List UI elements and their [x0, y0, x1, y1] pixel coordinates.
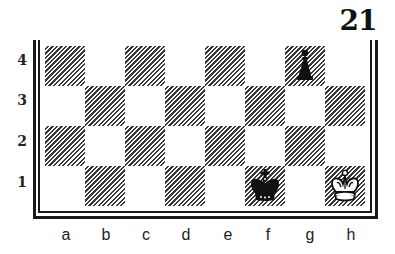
square-c1 — [125, 166, 165, 206]
square-h4 — [325, 46, 365, 86]
square-b1 — [85, 166, 125, 206]
square-g2 — [285, 126, 325, 166]
square-a4 — [45, 46, 85, 86]
file-label-c: c — [136, 226, 156, 244]
square-e3 — [205, 86, 245, 126]
board-border-right-inner — [370, 40, 372, 213]
board-border-right-outer — [375, 40, 378, 219]
square-f1 — [245, 166, 285, 206]
square-a1 — [45, 166, 85, 206]
square-f2 — [245, 126, 285, 166]
square-g1 — [285, 166, 325, 206]
file-label-g: g — [300, 226, 320, 244]
board-border-left-inner — [38, 40, 40, 213]
square-e2 — [205, 126, 245, 166]
square-h2 — [325, 126, 365, 166]
file-label-d: d — [176, 226, 196, 244]
square-g3 — [285, 86, 325, 126]
square-a2 — [45, 126, 85, 166]
rank-label-2: 2 — [14, 133, 30, 149]
square-b3 — [85, 86, 125, 126]
square-h1 — [325, 166, 365, 206]
square-f3 — [245, 86, 285, 126]
file-label-e: e — [218, 226, 238, 244]
white-king-icon — [325, 166, 365, 206]
rank-label-3: 3 — [14, 92, 30, 108]
square-c2 — [125, 126, 165, 166]
diagram-number: 21 — [328, 4, 388, 38]
square-g4 — [285, 46, 325, 86]
square-e1 — [205, 166, 245, 206]
square-b4 — [85, 46, 125, 86]
rank-label-1: 1 — [14, 174, 30, 190]
square-b2 — [85, 126, 125, 166]
square-f4 — [245, 46, 285, 86]
square-a3 — [45, 86, 85, 126]
board-border-bottom-outer — [33, 216, 378, 219]
square-c3 — [125, 86, 165, 126]
rank-label-4: 4 — [14, 52, 30, 68]
square-d4 — [165, 46, 205, 86]
square-h3 — [325, 86, 365, 126]
square-c4 — [125, 46, 165, 86]
file-label-f: f — [258, 226, 278, 244]
square-e4 — [205, 46, 245, 86]
board-border-left-outer — [33, 40, 36, 219]
square-d3 — [165, 86, 205, 126]
square-d1 — [165, 166, 205, 206]
file-label-a: a — [56, 226, 76, 244]
file-label-b: b — [96, 226, 116, 244]
black-pawn-icon — [285, 46, 325, 86]
chess-board — [45, 46, 367, 206]
square-d2 — [165, 126, 205, 166]
board-border-bottom-inner — [38, 211, 372, 213]
black-king-icon — [245, 166, 285, 206]
file-label-h: h — [341, 226, 361, 244]
